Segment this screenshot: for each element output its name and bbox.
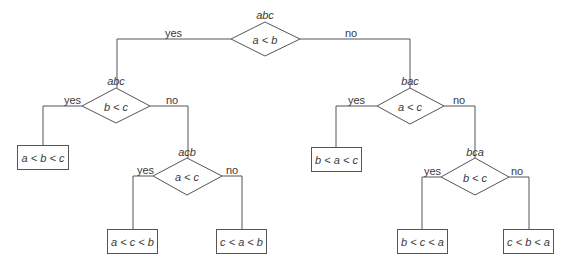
bac-test-label: a < c <box>398 101 422 113</box>
left-test-label: b < c <box>104 101 128 113</box>
bac-permutation-label: bac <box>401 75 419 87</box>
acb-yes-label: yes <box>137 164 154 176</box>
leaf-a-b-c: a < b < c <box>17 145 69 170</box>
left-yes-label: yes <box>64 94 81 106</box>
acb-test-label: a < c <box>175 171 199 183</box>
bac-no-label: no <box>453 94 465 106</box>
root-test-label: a < b <box>253 34 278 46</box>
leaf-b-a-c: b < a < c <box>311 147 362 172</box>
bac-yes-label: yes <box>348 94 365 106</box>
tree-edges <box>0 0 571 267</box>
left-no-label: no <box>166 94 178 106</box>
leaf-c-b-a: c < b < a <box>503 229 554 254</box>
leaf-a-c-b: a < c < b <box>107 229 158 254</box>
bca-yes-label: yes <box>424 165 441 177</box>
root-yes-label: yes <box>165 27 182 39</box>
acb-no-label: no <box>226 164 238 176</box>
root-no-label: no <box>345 27 357 39</box>
bca-permutation-label: bca <box>466 146 484 158</box>
acb-permutation-label: acb <box>178 146 196 158</box>
bca-test-label: b < c <box>463 172 487 184</box>
left-permutation-label: abc <box>107 75 125 87</box>
leaf-c-a-b: c < a < b <box>216 229 267 254</box>
root-permutation-label: abc <box>256 9 274 21</box>
leaf-b-c-a: b < c < a <box>397 229 448 254</box>
bca-no-label: no <box>511 165 523 177</box>
